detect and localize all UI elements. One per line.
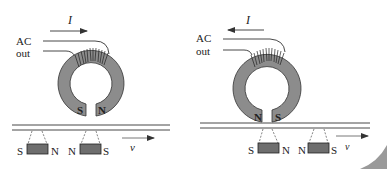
gap-pole-right: N [98,104,106,116]
lead-wire-bottom [223,50,252,55]
gap-pole-left: S [77,104,83,116]
diagram-canvas: I AC out S N [0,0,387,169]
page-curl-corner [360,145,387,169]
domain-magnet-2: N S [298,129,337,156]
ac-label: AC [196,32,211,44]
magnet-2-left-pole: N [68,145,76,157]
current-indicator-left: I [50,13,87,31]
magnet-1-left-pole: S [248,144,254,156]
magnet-1-right-pole: N [51,145,59,157]
lead-wire-bottom [43,51,75,56]
magnet-2-left-pole: N [298,144,306,156]
magnet-2-right-pole: S [103,145,109,157]
domain-magnet-2: N S [68,131,109,157]
velocity-label: v [130,141,135,153]
toroid-core [233,54,301,122]
gap-pole-right: S [275,111,281,123]
gap-pole-left: N [254,111,262,123]
current-indicator-right: I [228,13,264,30]
velocity-label: v [345,141,350,152]
ac-label: AC [16,35,31,47]
right-panel: I AC out N S S [196,13,370,156]
current-label: I [245,13,251,27]
out-label: out [16,47,30,59]
magnet-1-right-pole: N [282,144,290,156]
domain-magnet-1: S N [248,129,290,156]
current-label: I [67,13,73,27]
magnet-2-right-pole: S [331,144,337,156]
domain-magnet-1: S N [17,131,59,157]
left-panel: I AC out S N [12,13,170,157]
out-label: out [196,45,210,57]
magnet-1-left-pole: S [17,145,23,157]
